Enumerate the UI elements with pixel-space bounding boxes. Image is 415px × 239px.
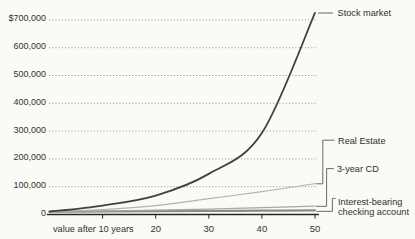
y-axis-labels: $700,000600,000500,000400,000300,000200,…	[8, 13, 46, 218]
y-tick-label-100000: 100,000	[13, 180, 46, 190]
x-tick-label-30: 30	[204, 223, 215, 234]
stock-market-label: Stock market	[338, 8, 392, 18]
investment-growth-figure: $700,000600,000500,000400,000300,000200,…	[0, 0, 415, 239]
series-line-stock-market	[50, 13, 316, 212]
x-tick-label-10: value after 10 years	[53, 224, 134, 234]
x-axis	[47, 215, 319, 219]
real-estate-label: Real Estate	[338, 136, 386, 146]
y-tick-label-400000: 400,000	[13, 97, 46, 107]
x-axis-labels: value after 10 years20304050	[53, 223, 320, 234]
y-tick-label-600000: 600,000	[13, 41, 46, 51]
y-tick-label-700000: $700,000	[8, 13, 46, 23]
checking-account-label-line2: checking account	[338, 207, 409, 217]
series-callouts: Stock market Real Estate 3-year CD Inter…	[316, 8, 409, 217]
series-lines	[50, 13, 316, 212]
x-tick-label-40: 40	[257, 223, 268, 234]
checking-account-label-line1: Interest-bearing	[338, 197, 402, 207]
three-year-cd-label: 3-year CD	[337, 164, 379, 174]
checking-account-leader-line	[317, 198, 336, 211]
x-tick-label-50: 50	[310, 223, 321, 234]
investment-growth-chart: $700,000600,000500,000400,000300,000200,…	[0, 0, 415, 239]
x-tick-label-20: 20	[150, 223, 161, 234]
y-tick-label-0: 0	[41, 208, 46, 218]
y-tick-label-300000: 300,000	[13, 125, 46, 135]
three-year-cd-leader-line	[316, 169, 334, 207]
y-tick-label-200000: 200,000	[13, 152, 46, 162]
y-tick-label-500000: 500,000	[13, 69, 46, 79]
real-estate-leader-line	[316, 140, 335, 184]
